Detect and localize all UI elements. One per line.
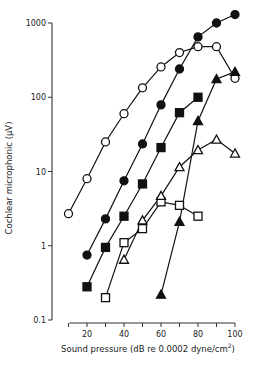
filled-circle-marker [231,11,239,19]
x-tick-label: 20 [82,330,92,339]
y-tick-label: 0.1 [33,316,46,325]
open-triangle-marker [212,135,221,143]
y-axis-label: Cochlear microphonic (μV) [4,122,14,235]
filled-circle-marker [194,33,202,41]
cochlear-microphonic-plot: 0.11101001000 20406080100 Cochlear micro… [0,0,253,366]
filled-circle-marker [120,177,128,185]
x-tick-label: 80 [193,330,203,339]
y-axis: 0.11101001000 [26,19,52,325]
filled-circle-marker [176,65,184,73]
filled-circle-marker [157,101,165,109]
filled-square-marker [83,283,91,291]
series-line [87,97,198,287]
open-circle-marker [176,49,184,57]
x-axis-label-end: ) [232,344,235,354]
x-tick-label: 60 [156,330,166,339]
open-square-marker [194,212,202,220]
filled-square-marker [157,144,165,152]
filled-triangle-marker [175,217,184,225]
open-circle-marker [65,210,73,218]
filled-square-marker [120,212,128,220]
x-tick-label: 100 [227,330,242,339]
open-square-marker [139,225,147,233]
filled-triangle-marker [212,75,221,83]
filled-circle-marker [83,251,91,259]
filled-circle-marker [213,19,221,27]
y-tick-label: 100 [31,93,46,102]
open-circle-marker [194,43,202,51]
filled-triangle-marker [194,116,203,124]
open-circle-marker [102,138,110,146]
filled-square-marker [139,180,147,188]
filled-square-marker [176,109,184,117]
open-square-marker [120,239,128,247]
series-line [69,47,236,214]
filled-circle-marker [102,215,110,223]
open-circle-marker [139,84,147,92]
series-markers [65,11,240,302]
open-triangle-marker [120,255,129,263]
open-circle-marker [83,175,91,183]
series-line [124,139,235,259]
open-circle-marker [213,43,221,51]
open-square-marker [102,294,110,302]
open-circle-marker [120,110,128,118]
x-axis-label-main: Sound pressure (dB re 0.0002 dyne/cm [61,344,228,354]
x-tick-label: 40 [119,330,129,339]
open-triangle-marker [157,191,166,199]
y-tick-label: 1000 [26,19,46,28]
open-triangle-marker [231,149,240,157]
filled-square-marker [102,243,110,251]
series-line [161,72,235,295]
y-tick-label: 10 [36,168,46,177]
filled-square-marker [194,93,202,101]
open-triangle-marker [194,145,203,153]
filled-triangle-marker [231,67,240,75]
filled-circle-marker [139,140,147,148]
open-circle-marker [157,63,165,71]
chart-container: 0.11101001000 20406080100 Cochlear micro… [0,0,253,366]
series-lines [69,15,236,298]
y-tick-label: 1 [41,242,46,251]
x-axis: 20406080100 [69,323,243,339]
filled-triangle-marker [157,290,166,298]
open-square-marker [176,201,184,209]
x-axis-label: Sound pressure (dB re 0.0002 dyne/cm2) [61,342,235,354]
